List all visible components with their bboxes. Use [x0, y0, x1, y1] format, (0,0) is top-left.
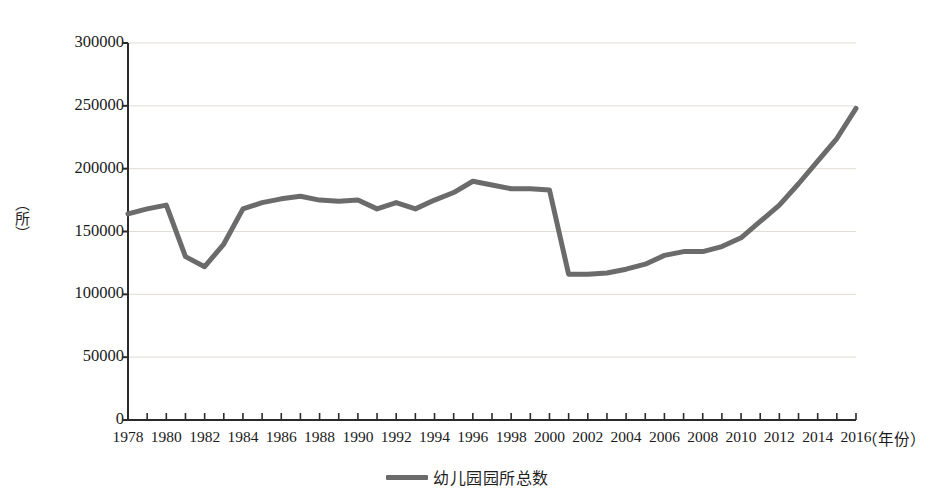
chart-container: （所） 050000100000150000200000250000300000…: [0, 0, 935, 503]
legend-label-kindergarten-total: 幼儿园园所总数: [433, 465, 549, 489]
data-line-kindergarten-total: [128, 108, 856, 274]
legend: 幼儿园园所总数: [0, 465, 935, 489]
legend-line-swatch: [386, 475, 428, 480]
plot-area: [0, 0, 935, 503]
